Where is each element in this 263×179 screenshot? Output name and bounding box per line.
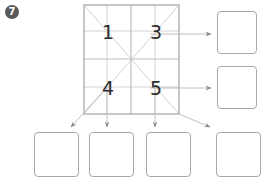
bottom-answer-box-2[interactable]: [89, 132, 134, 177]
cell-number-5: 5: [150, 79, 162, 98]
cell-number-1: 1: [102, 23, 114, 42]
bottom-answer-box-4[interactable]: [216, 132, 261, 177]
cell-number-3: 3: [150, 23, 162, 42]
cell-number-4: 4: [102, 79, 114, 98]
bottom-answer-box-3[interactable]: [146, 132, 191, 177]
arrow-down-4: [179, 114, 210, 127]
right-answer-box-1[interactable]: [217, 11, 257, 54]
diagram: 7: [0, 0, 263, 179]
bottom-answer-box-1[interactable]: [34, 132, 79, 177]
right-answer-box-2[interactable]: [217, 66, 257, 109]
